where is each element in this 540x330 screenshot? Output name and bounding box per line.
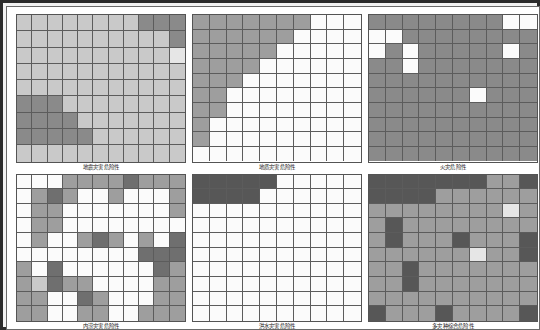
heatmap-cell <box>419 74 436 89</box>
heatmap-cell <box>260 218 277 233</box>
heatmap-cell <box>327 132 344 147</box>
heatmap-cell <box>63 129 78 145</box>
heatmap-cell <box>193 218 210 233</box>
heatmap-cell <box>386 218 403 233</box>
heatmap-cell <box>311 103 328 118</box>
heatmap-cell <box>243 118 260 133</box>
heatmap-cell <box>170 218 185 233</box>
heatmap-cell <box>124 64 139 80</box>
heatmap-cell <box>32 80 47 96</box>
heatmap-cell <box>210 248 227 263</box>
heatmap-cell <box>210 277 227 292</box>
heatmap-cell <box>520 218 537 233</box>
heatmap-cell <box>227 204 244 219</box>
heatmap-cell <box>63 233 78 248</box>
heatmap-cell <box>520 15 537 30</box>
heatmap-cell <box>93 15 108 31</box>
heatmap-cell <box>453 218 470 233</box>
heatmap-cell <box>419 248 436 263</box>
heatmap-cell <box>124 80 139 96</box>
heatmap-cell <box>386 175 403 190</box>
heatmap-cell <box>453 74 470 89</box>
heatmap-cell <box>260 132 277 147</box>
heatmap-cell <box>227 118 244 133</box>
heatmap-cell <box>17 175 32 190</box>
heatmap-cell <box>48 145 63 161</box>
heatmap-cell <box>139 204 154 219</box>
heatmap-cell <box>210 306 227 321</box>
heatmap-cell <box>154 218 169 233</box>
heatmap-cell <box>487 132 504 147</box>
panel-flood-hazard-map[interactable] <box>192 174 362 323</box>
heatmap-cell <box>311 292 328 307</box>
heatmap-cell <box>277 189 294 204</box>
heatmap-cell <box>327 292 344 307</box>
heatmap-cell <box>63 292 78 307</box>
heatmap-cell <box>193 175 210 190</box>
heatmap-cell <box>487 204 504 219</box>
heatmap-cell <box>294 262 311 277</box>
heatmap-cell <box>436 44 453 59</box>
heatmap-cell <box>17 262 32 277</box>
panel-geological-hazard-map[interactable] <box>192 14 362 163</box>
heatmap-cell <box>93 306 108 321</box>
heatmap-cell <box>503 88 520 103</box>
heatmap-cell <box>419 175 436 190</box>
heatmap-cell <box>277 248 294 263</box>
heatmap-cell <box>327 277 344 292</box>
heatmap-cell <box>386 132 403 147</box>
panel-fire-hazard-map[interactable] <box>368 14 538 163</box>
heatmap-cell <box>386 262 403 277</box>
heatmap-cell <box>386 189 403 204</box>
heatmap-cell <box>311 15 328 30</box>
panel-multihazard-composite-map[interactable] <box>368 174 538 323</box>
heatmap-cell <box>487 262 504 277</box>
heatmap-cell <box>277 88 294 103</box>
panel-waterlogging-hazard-map[interactable] <box>16 174 186 323</box>
heatmap-cell <box>93 48 108 64</box>
heatmap-cell <box>503 30 520 45</box>
heatmap-cell <box>193 88 210 103</box>
heatmap-cell <box>170 277 185 292</box>
heatmap-cell <box>403 262 420 277</box>
heatmap-cell <box>139 277 154 292</box>
panel-fire-hazard-caption: 火灾危险性 <box>440 163 466 172</box>
heatmap-cell <box>210 233 227 248</box>
heatmap-cell <box>520 306 537 321</box>
heatmap-cell <box>327 59 344 74</box>
heatmap-cell <box>487 218 504 233</box>
heatmap-cell <box>210 88 227 103</box>
panel-multihazard-composite: 多灾种综合危险性 <box>368 174 538 330</box>
heatmap-cell <box>403 248 420 263</box>
heatmap-cell <box>436 132 453 147</box>
heatmap-cell <box>17 204 32 219</box>
heatmap-cell <box>327 306 344 321</box>
heatmap-cell <box>436 306 453 321</box>
heatmap-cell <box>124 218 139 233</box>
heatmap-cell <box>419 30 436 45</box>
heatmap-cell <box>369 44 386 59</box>
heatmap-cell <box>63 248 78 263</box>
heatmap-cell <box>210 175 227 190</box>
panel-geological-hazard: 地质灾害危险性 <box>192 14 362 172</box>
heatmap-cell <box>369 88 386 103</box>
heatmap-cell <box>503 74 520 89</box>
heatmap-cell <box>277 306 294 321</box>
heatmap-cell <box>109 306 124 321</box>
heatmap-cell <box>93 96 108 112</box>
heatmap-cell <box>243 74 260 89</box>
heatmap-cell <box>139 31 154 47</box>
heatmap-cell <box>386 147 403 162</box>
heatmap-cell <box>403 175 420 190</box>
heatmap-cell <box>109 218 124 233</box>
heatmap-cell <box>78 64 93 80</box>
heatmap-cell <box>520 175 537 190</box>
panel-earthquake-hazard-map[interactable] <box>16 14 186 163</box>
heatmap-cell <box>503 233 520 248</box>
heatmap-cell <box>344 306 361 321</box>
heatmap-cell <box>193 262 210 277</box>
heatmap-cell <box>17 48 32 64</box>
heatmap-cell <box>170 189 185 204</box>
heatmap-cell <box>470 59 487 74</box>
heatmap-cell <box>294 189 311 204</box>
